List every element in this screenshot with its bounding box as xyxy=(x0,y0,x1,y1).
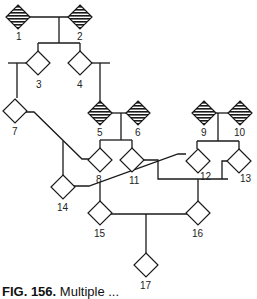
individual-label: 5 xyxy=(97,127,103,138)
affected-diamond-icon xyxy=(192,101,216,125)
individual-9: 9 xyxy=(192,101,216,138)
affected-diamond-icon xyxy=(88,101,112,125)
individual-label: 10 xyxy=(234,127,246,138)
unaffected-diamond-icon xyxy=(3,99,27,123)
individual-label: 11 xyxy=(129,175,140,186)
individual-17: 17 xyxy=(134,253,158,291)
individual-label: 7 xyxy=(12,126,18,137)
individual-15: 15 xyxy=(88,201,112,239)
individual-label: 12 xyxy=(200,171,212,182)
unaffected-diamond-icon xyxy=(51,175,75,199)
individual-label: 14 xyxy=(57,202,69,213)
individual-label: 16 xyxy=(192,228,204,239)
unaffected-diamond-icon xyxy=(134,253,158,277)
unaffected-diamond-icon xyxy=(26,51,50,75)
individual-5: 5 xyxy=(88,101,112,138)
individual-label: 8 xyxy=(96,174,102,185)
individual-10: 10 xyxy=(228,101,252,138)
individual-label: 9 xyxy=(201,127,207,138)
individual-label: 15 xyxy=(94,228,106,239)
individual-6: 6 xyxy=(126,101,150,138)
figure-caption: FIG. 156. Multiple ... xyxy=(2,284,119,299)
individual-13: 13 xyxy=(227,149,252,184)
individual-label: 17 xyxy=(140,280,152,291)
affected-diamond-icon xyxy=(228,101,252,125)
individual-label: 1 xyxy=(16,31,22,42)
unaffected-diamond-icon xyxy=(186,201,210,225)
unaffected-diamond-icon xyxy=(227,149,251,173)
unaffected-diamond-icon xyxy=(88,148,112,172)
individual-4: 4 xyxy=(68,51,92,90)
individual-2: 2 xyxy=(68,5,92,42)
unaffected-diamond-icon xyxy=(68,51,92,75)
affected-diamond-icon xyxy=(126,101,150,125)
individual-label: 6 xyxy=(135,127,141,138)
individual-label: 4 xyxy=(77,79,83,90)
caption-text: Multiple ... xyxy=(60,284,119,299)
individual-3: 3 xyxy=(26,51,50,90)
individual-12: 12 xyxy=(186,149,212,182)
unaffected-diamond-icon xyxy=(88,201,112,225)
individual-14: 14 xyxy=(51,175,75,213)
individual-7: 7 xyxy=(3,99,27,137)
unaffected-diamond-icon xyxy=(120,148,144,172)
caption-prefix: FIG. 156. xyxy=(2,284,56,299)
individual-label: 13 xyxy=(240,173,252,184)
unaffected-diamond-icon xyxy=(186,149,210,173)
individual-label: 2 xyxy=(77,31,83,42)
individual-1: 1 xyxy=(6,5,30,42)
individual-16: 16 xyxy=(186,201,210,239)
affected-diamond-icon xyxy=(6,5,30,29)
affected-diamond-icon xyxy=(68,5,92,29)
individual-label: 3 xyxy=(36,79,42,90)
